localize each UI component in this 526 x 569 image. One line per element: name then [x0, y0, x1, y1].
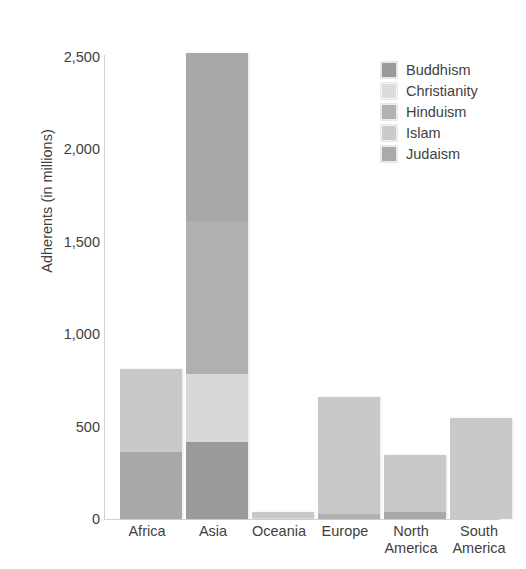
legend-item-hinduism[interactable]: Hinduism — [381, 102, 521, 122]
bar-segment-hinduism[interactable] — [186, 221, 248, 374]
legend-swatch-icon — [381, 83, 397, 99]
bar-africa[interactable] — [120, 55, 182, 519]
y-tick-1000: 1,000 — [44, 326, 100, 342]
legend-label: Judaism — [406, 146, 460, 162]
bar-oceania[interactable] — [252, 55, 314, 519]
legend-item-judaism[interactable]: Judaism — [381, 144, 521, 164]
y-tick-2000: 2,000 — [44, 141, 100, 157]
legend-label: Buddhism — [406, 62, 470, 78]
legend-swatch-icon — [381, 146, 397, 162]
y-axis-ticks: 2,500 2,000 1,500 1,000 500 0 — [38, 0, 100, 569]
bar-asia[interactable] — [186, 55, 248, 519]
bar-segment-christianity[interactable] — [186, 374, 248, 441]
legend-item-christianity[interactable]: Christianity — [381, 81, 521, 101]
x-axis-line — [104, 519, 500, 520]
x-label-south-america: South America — [436, 523, 522, 557]
bar-segment-islam[interactable] — [318, 397, 380, 515]
chart-figure: ent Adherents (in millions) 2,500 2,000 … — [0, 0, 526, 569]
bar-segment-judaism[interactable] — [384, 512, 446, 519]
bar-europe[interactable] — [318, 55, 380, 519]
legend-label: Hinduism — [406, 104, 466, 120]
y-tick-500: 500 — [44, 419, 100, 435]
legend-item-islam[interactable]: Islam — [381, 123, 521, 143]
legend-swatch-icon — [381, 62, 397, 78]
bar-segment-islam[interactable] — [120, 369, 182, 451]
legend-label: Christianity — [406, 83, 478, 99]
bar-segment-christianity[interactable] — [252, 518, 314, 519]
bar-segment-judaism[interactable] — [120, 452, 182, 519]
legend-item-buddhism[interactable]: Buddhism — [381, 60, 521, 80]
y-tick-2500: 2,500 — [44, 49, 100, 65]
bar-segment-islam[interactable] — [384, 455, 446, 513]
bar-segment-islam[interactable] — [252, 512, 314, 518]
legend-swatch-icon — [381, 104, 397, 120]
bar-segment-buddhism[interactable] — [186, 442, 248, 519]
legend-swatch-icon — [381, 125, 397, 141]
bar-segment-islam[interactable] — [450, 418, 512, 519]
y-tick-0: 0 — [44, 511, 100, 527]
y-tick-1500: 1,500 — [44, 234, 100, 250]
bar-segment-judaism[interactable] — [186, 53, 248, 221]
chart-legend: Buddhism Christianity Hinduism Islam Jud… — [381, 60, 521, 165]
bar-segment-hinduism[interactable] — [318, 514, 380, 519]
legend-label: Islam — [406, 125, 441, 141]
